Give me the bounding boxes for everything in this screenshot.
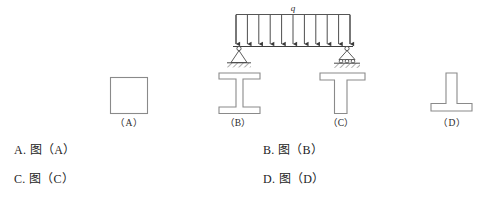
load-label-q: q (291, 3, 296, 13)
roller-triangle (339, 51, 355, 60)
answer-options: A. 图（A） B. 图（B） C. 图（C） D. 图（D） (0, 136, 497, 198)
roller-support-right (334, 46, 360, 67)
load-arrows (236, 15, 350, 44)
ground-hatch (227, 63, 251, 67)
t-section-outline (320, 73, 365, 114)
figure-caption-c: （C） (313, 115, 369, 129)
option-d[interactable]: D. 图（D） (263, 169, 324, 187)
rectangle-outline (111, 78, 148, 114)
pin-support-left (227, 46, 251, 67)
section-shape-d (431, 73, 472, 111)
pin-triangle (231, 51, 247, 63)
question-page: q (0, 0, 497, 198)
option-a[interactable]: A. 图（A） (14, 140, 75, 158)
option-b[interactable]: B. 图（B） (263, 140, 323, 158)
option-c[interactable]: C. 图（C） (14, 169, 74, 187)
figure-caption-d: （D） (424, 115, 480, 129)
roller-wheel-mid (345, 59, 349, 63)
section-shape-b (219, 73, 260, 114)
distributed-load-group: q (233, 3, 353, 47)
ground-hatch (334, 63, 360, 67)
section-shape-c (320, 73, 365, 114)
roller-wheel-left (339, 59, 343, 63)
figure-caption-a: （A） (101, 115, 157, 129)
figure-caption-b: （B） (210, 115, 266, 129)
inverted-t-outline (431, 73, 472, 111)
i-beam-outline (219, 73, 260, 114)
roller-wheel-right (351, 59, 355, 63)
section-shape-a (111, 78, 148, 114)
